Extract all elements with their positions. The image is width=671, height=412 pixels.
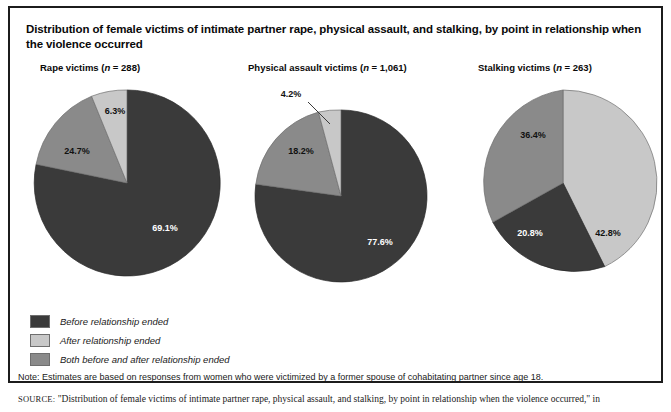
pie-label-before-rape: 69.1% [152,223,178,233]
pie-svg-physical-assault: 4.2% 77.6% 18.2% [246,88,446,288]
source-prefix: SOURCE: [18,394,55,404]
pie-label-before-physical: 77.6% [367,237,393,247]
figure-note: Note: Estimates are based on responses f… [18,372,658,382]
panel-stalking-victims: Stalking victims (n = 263) 42.8% 36.4% 2… [450,62,667,292]
legend-item-after: After relationship ended [30,331,450,350]
panel-title-physical-assault: Physical assault victims (n = 1,061) [248,62,407,73]
legend-label-both: Both before and after relationship ended [60,354,230,365]
legend: Before relationship ended After relation… [30,312,450,369]
pie-svg-rape: 69.1% 24.7% 6.3% [32,88,222,278]
figure-page: Distribution of female victims of intima… [0,0,671,412]
pie-label-both-rape: 24.7% [64,146,90,156]
pie-label-after-physical: 4.2% [281,89,302,99]
legend-label-after: After relationship ended [60,335,160,346]
panel-physical-assault-victims: Physical assault victims (n = 1,061) 4.2… [232,62,449,292]
panel-title-stalking: Stalking victims (n = 263) [478,62,592,73]
pie-svg-stalking: 42.8% 36.4% 20.8% [468,88,658,278]
figure-source: SOURCE: "Distribution of female victims … [18,394,666,404]
source-text: "Distribution of female victims of intim… [58,394,600,404]
pie-chart-physical-assault: 4.2% 77.6% 18.2% [246,88,446,288]
legend-swatch-both-icon [30,353,50,366]
legend-swatch-before-icon [30,315,50,328]
legend-item-both: Both before and after relationship ended [30,350,450,369]
legend-item-before: Before relationship ended [30,312,450,331]
panel-rape-victims: Rape victims (n = 288) 69.1% 24.7% 6.3% [18,62,235,292]
pie-label-both-physical: 18.2% [288,146,314,156]
panel-title-rape: Rape victims (n = 288) [40,62,140,73]
figure-frame: Distribution of female victims of intima… [8,6,663,383]
pie-panels: Rape victims (n = 288) 69.1% 24.7% 6.3% [10,62,661,292]
pie-label-after-stalking: 42.8% [595,228,621,238]
figure-title: Distribution of female victims of intima… [26,22,646,52]
pie-chart-stalking: 42.8% 36.4% 20.8% [468,88,658,278]
pie-label-after-rape: 6.3% [105,106,126,116]
pie-chart-rape: 69.1% 24.7% 6.3% [32,88,222,278]
pie-label-before-stalking: 20.8% [517,228,543,238]
pie-label-both-stalking: 36.4% [520,130,546,140]
legend-label-before: Before relationship ended [60,316,168,327]
legend-swatch-after-icon [30,334,50,347]
